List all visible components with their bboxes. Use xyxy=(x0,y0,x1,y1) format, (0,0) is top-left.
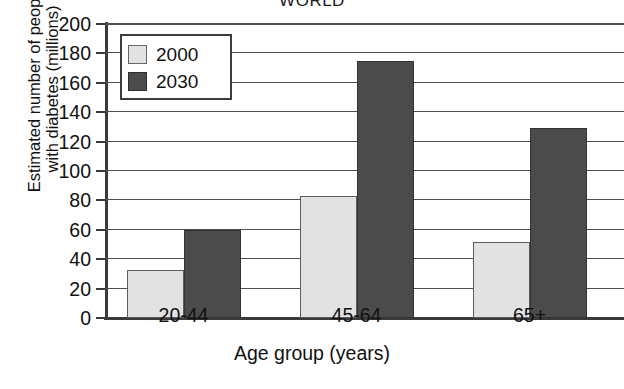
y-tick-20 xyxy=(96,288,105,290)
legend-label-2000: 2000 xyxy=(156,45,198,64)
bar-45-64-2030 xyxy=(357,61,414,318)
y-tick-label-160: 160 xyxy=(29,74,91,94)
x-axis-title: Age group (years) xyxy=(0,342,624,365)
y-tick-0 xyxy=(96,317,105,319)
y-tick-label-80: 80 xyxy=(29,191,91,211)
legend-item-2030: 2030 xyxy=(128,68,224,95)
y-tick-label-140: 140 xyxy=(29,103,91,123)
x-tick-label-20-44: 20-44 xyxy=(159,304,209,327)
y-tick-label-40: 40 xyxy=(29,250,91,270)
y-tick-40 xyxy=(96,258,105,260)
legend-swatch-icon-2030 xyxy=(128,72,147,91)
bar-65+-2030 xyxy=(530,128,587,318)
gridline-200 xyxy=(105,23,624,25)
x-tick-label-65+: 65+ xyxy=(513,304,546,327)
legend: 2000 2030 xyxy=(120,34,232,100)
y-tick-label-100: 100 xyxy=(29,162,91,182)
y-tick-180 xyxy=(96,52,105,54)
chart-screenshot: WORLD Estimated number of people with di… xyxy=(0,0,624,389)
y-tick-label-60: 60 xyxy=(29,221,91,241)
y-tick-label-120: 120 xyxy=(29,133,91,153)
y-tick-200 xyxy=(96,23,105,25)
y-tick-label-200: 200 xyxy=(29,15,91,35)
x-tick-label-45-64: 45-64 xyxy=(332,304,382,327)
y-tick-140 xyxy=(96,111,105,113)
y-tick-160 xyxy=(96,82,105,84)
y-tick-120 xyxy=(96,141,105,143)
legend-label-2030: 2030 xyxy=(156,72,198,91)
y-tick-label-180: 180 xyxy=(29,44,91,64)
y-tick-100 xyxy=(96,170,105,172)
legend-item-2000: 2000 xyxy=(128,41,224,68)
y-tick-80 xyxy=(96,199,105,201)
y-tick-label-0: 0 xyxy=(29,309,91,329)
bar-45-64-2000 xyxy=(300,196,357,318)
y-tick-label-20: 20 xyxy=(29,280,91,300)
chart-title: WORLD xyxy=(0,0,624,11)
legend-swatch-icon-2000 xyxy=(128,45,147,64)
y-axis-line xyxy=(105,22,108,320)
y-tick-60 xyxy=(96,229,105,231)
